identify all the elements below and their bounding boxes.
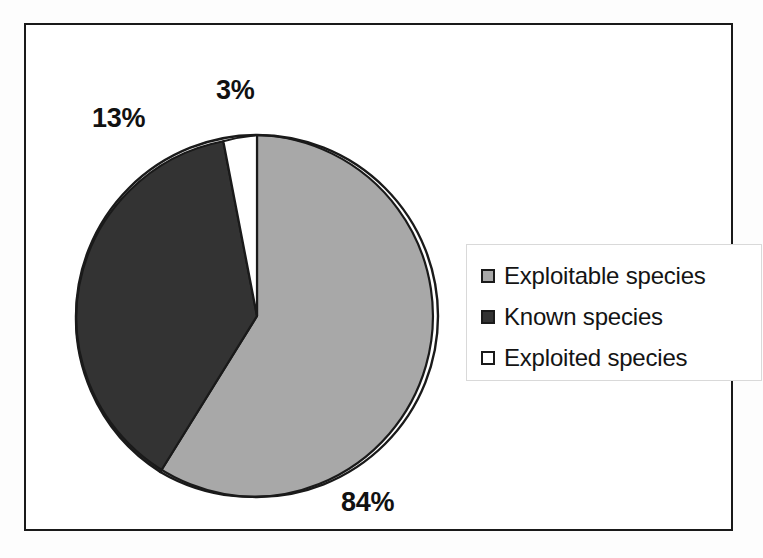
legend-swatch-white-icon [481, 351, 495, 365]
pie-svg [74, 133, 440, 499]
legend-label-exploited-species: Exploited species [504, 344, 687, 372]
legend-item-exploitable-species[interactable]: Exploitable species [481, 256, 761, 295]
chart-frame: 84% 13% 3% Exploitable species Known spe… [24, 23, 733, 531]
legend-item-exploited-species[interactable]: Exploited species [481, 338, 761, 377]
legend-swatch-gray-icon [481, 269, 495, 283]
pie-data-label-exploited-species: 3% [216, 75, 254, 106]
pie-chart [74, 133, 440, 499]
pie-data-label-exploitable-species: 84% [341, 487, 394, 518]
chart-legend: Exploitable species Known species Exploi… [466, 244, 762, 381]
figure-root: 84% 13% 3% Exploitable species Known spe… [0, 0, 763, 558]
legend-label-known-species: Known species [504, 303, 663, 331]
legend-swatch-dark-icon [481, 310, 495, 324]
pie-data-label-known-species: 13% [92, 103, 145, 134]
legend-item-known-species[interactable]: Known species [481, 297, 761, 336]
legend-label-exploitable-species: Exploitable species [504, 262, 706, 290]
